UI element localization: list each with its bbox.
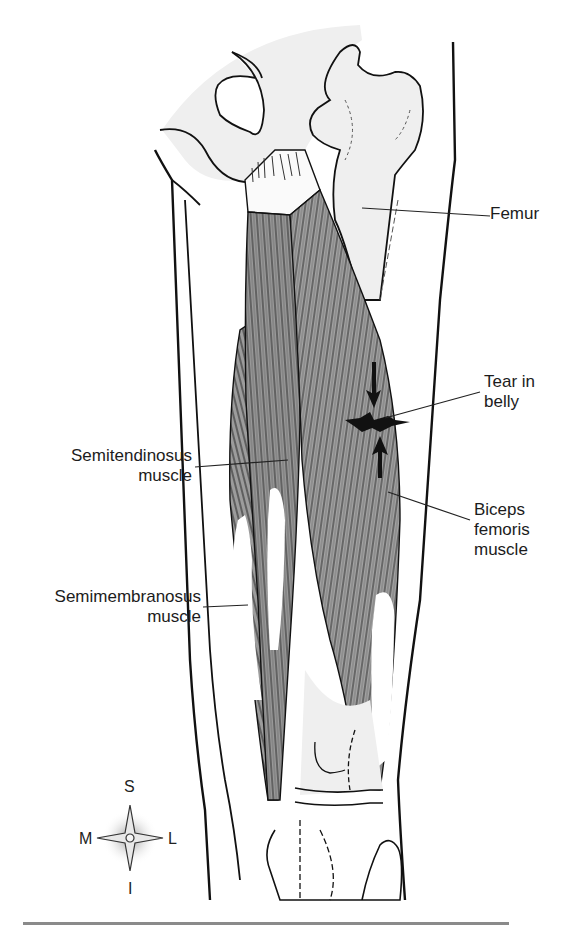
thigh-outline-lateral: [398, 42, 455, 900]
label-semitendinosus: Semitendinosus muscle: [30, 446, 192, 486]
label-femur: Femur: [490, 204, 539, 224]
label-tear-line1: Tear in: [484, 372, 535, 392]
label-semitendinosus-line2: muscle: [30, 466, 192, 486]
compass-superior: S: [124, 778, 135, 796]
label-biceps-femoris: Biceps femoris muscle: [474, 500, 530, 560]
inner-outline-medial: [185, 200, 240, 880]
joint-line-lower: [295, 802, 383, 805]
label-semitendinosus-line1: Semitendinosus: [30, 446, 192, 466]
tibia-fibula: [267, 830, 402, 900]
label-biceps-line2: femoris: [474, 520, 530, 540]
label-semimembranosus: Semimembranosus muscle: [10, 587, 201, 627]
compass-lateral: L: [168, 830, 177, 848]
anatomy-figure: Femur Tear in belly Semitendinosus muscl…: [0, 0, 579, 931]
thigh-outline-medial: [155, 150, 210, 900]
label-tear-in-belly: Tear in belly: [484, 372, 535, 412]
bottom-divider: [23, 922, 509, 925]
label-biceps-line3: muscle: [474, 540, 530, 560]
label-biceps-line1: Biceps: [474, 500, 530, 520]
orientation-compass-icon: [97, 805, 163, 871]
label-semimembranosus-line2: muscle: [10, 607, 201, 627]
compass-medial: M: [79, 830, 92, 848]
label-semimembranosus-line1: Semimembranosus: [10, 587, 201, 607]
compass-inferior: I: [128, 880, 132, 898]
label-tear-line2: belly: [484, 392, 535, 412]
